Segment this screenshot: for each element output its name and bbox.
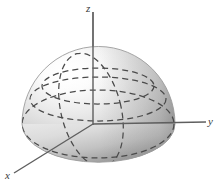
dome-rim-shadow xyxy=(100,40,185,170)
x-axis-label: x xyxy=(5,170,10,181)
y-axis-label: y xyxy=(208,116,213,127)
figure-container: z y x xyxy=(0,0,220,192)
dome-highlight xyxy=(26,50,98,98)
hemisphere-diagram-svg xyxy=(0,0,220,192)
z-axis-label: z xyxy=(86,3,90,14)
